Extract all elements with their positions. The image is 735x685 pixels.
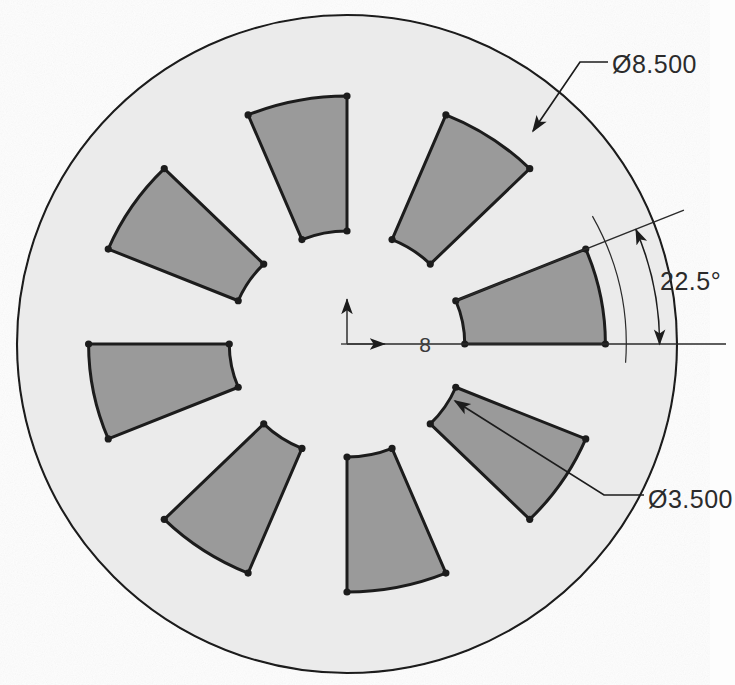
sector-vertex-point (260, 420, 267, 427)
sector-vertex-point (427, 260, 434, 267)
sector-vertex-point (226, 340, 233, 347)
sector-vertex-point (260, 260, 267, 267)
sector-vertex-point (582, 435, 589, 442)
sector-vertex-point (452, 384, 459, 391)
sector-vertex-point (235, 384, 242, 391)
inner-diameter-label: Ø3.500 (648, 485, 733, 513)
sector-vertex-point (343, 92, 350, 99)
pattern-quantity-label: 8 (419, 333, 431, 356)
sector-vertex-point (343, 588, 350, 595)
sector-vertex-point (343, 227, 350, 234)
drawing-canvas: 22.5° Ø8.500 Ø3.500 8 (0, 0, 735, 685)
sector-vertex-point (85, 340, 92, 347)
sector-vertex-point (442, 570, 449, 577)
sector-vertex-point (235, 297, 242, 304)
sector-vertex-point (526, 165, 533, 172)
sector-vertex-point (388, 445, 395, 452)
outer-diameter-label: Ø8.500 (612, 50, 697, 78)
sector-vertex-point (343, 453, 350, 460)
sector-vertex-point (105, 245, 112, 252)
sector-vertex-point (245, 111, 252, 118)
sector-vertex-point (298, 445, 305, 452)
sector-vertex-point (161, 165, 168, 172)
sector-vertex-point (298, 236, 305, 243)
sector-vertex-point (442, 111, 449, 118)
sector-vertex-point (526, 516, 533, 523)
sector-vertex-point (161, 516, 168, 523)
engineering-drawing-svg: 22.5° Ø8.500 Ø3.500 8 (0, 0, 735, 685)
sector-vertex-point (105, 435, 112, 442)
sector-vertex-point (427, 420, 434, 427)
sector-vertex-point (245, 570, 252, 577)
angle-dimension-label: 22.5° (660, 267, 721, 295)
sector-vertex-point (388, 236, 395, 243)
